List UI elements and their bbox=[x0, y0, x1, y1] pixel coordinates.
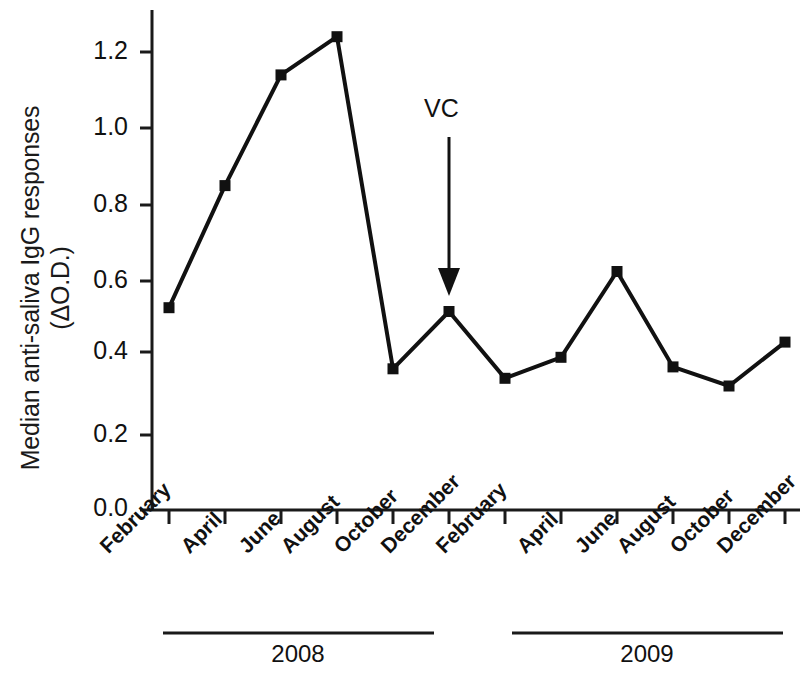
vc-annotation-label: VC bbox=[424, 94, 459, 123]
data-point-marker bbox=[724, 381, 735, 392]
data-point-marker bbox=[556, 352, 567, 363]
data-point-marker bbox=[388, 363, 399, 374]
data-point-marker bbox=[444, 306, 455, 317]
data-point-marker bbox=[668, 361, 679, 372]
data-point-marker bbox=[220, 180, 231, 191]
data-point-marker bbox=[780, 337, 791, 348]
data-point-marker bbox=[612, 266, 623, 277]
data-series-line bbox=[169, 37, 785, 386]
plot-area bbox=[0, 0, 804, 674]
chart-figure: Median anti-saliva IgG responses (ΔO.D.)… bbox=[0, 0, 804, 674]
group-label-2008: 2008 bbox=[248, 640, 348, 668]
data-point-marker bbox=[332, 31, 343, 42]
data-point-marker bbox=[276, 69, 287, 80]
data-series-markers bbox=[164, 31, 791, 391]
data-point-marker bbox=[500, 373, 511, 384]
y-axis-ticks bbox=[140, 52, 152, 510]
data-point-marker bbox=[164, 302, 175, 313]
group-label-2009: 2009 bbox=[597, 640, 697, 668]
vc-annotation-arrow bbox=[438, 137, 460, 296]
